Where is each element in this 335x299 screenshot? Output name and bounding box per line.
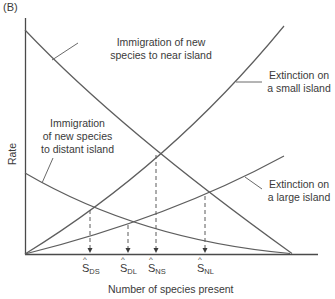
equilibrium-label-nl: SNL — [197, 262, 214, 276]
y-axis-label: Rate — [6, 140, 18, 168]
equilibrium-label-ds: SDS — [82, 262, 100, 276]
arrow-ds-icon — [88, 248, 93, 253]
equilibrium-label-dl: SDL — [120, 262, 137, 276]
arrow-dl-icon — [126, 248, 131, 253]
label-extinction-small: Extinction on a small island — [265, 69, 333, 95]
leader-extinction-large — [245, 177, 262, 189]
curve-extinction-large — [25, 156, 284, 254]
arrow-ns-icon — [154, 248, 159, 253]
leader-immigration-distant — [42, 158, 53, 183]
label-immigration-near: Immigration of new species to near islan… — [86, 36, 236, 62]
leader-immigration-near — [52, 43, 78, 60]
label-extinction-large: Extinction on a large island — [265, 178, 333, 204]
label-immigration-distant: Immigration of new species to distant is… — [35, 117, 120, 156]
arrow-nl-icon — [203, 248, 208, 253]
x-axis-label: Number of species present — [108, 283, 233, 295]
equilibrium-label-ns: SNS — [148, 262, 166, 276]
panel-label: (B) — [3, 1, 18, 13]
